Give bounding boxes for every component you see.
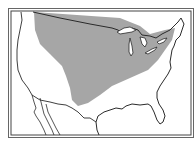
map-canvas: [0, 0, 196, 144]
range-map: [0, 0, 196, 144]
gulf-of-california-east: [40, 98, 54, 135]
shaded-range-region: [34, 12, 175, 106]
mexico-west-coast: [46, 104, 60, 135]
pacific-coastline: [17, 12, 32, 95]
gulf-coastline: [96, 104, 148, 135]
